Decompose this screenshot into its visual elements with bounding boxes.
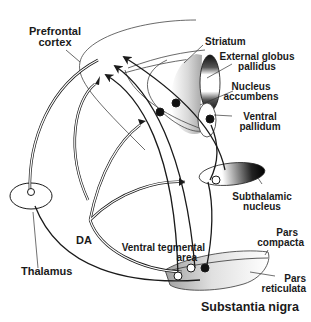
label-ventral-pallidum: Ventral pallidum [234,112,286,132]
label-line: pallidus [218,62,296,72]
label-ventral-tegmental-area: Ventral tegmental area [115,243,205,263]
label-line: pallidum [234,122,286,132]
striatum [171,54,202,134]
label-line: cortex [26,37,84,48]
label-prefrontal-cortex: Prefrontal cortex [26,26,84,48]
label-striatum: Striatum [205,37,246,47]
label-line: reticulata [254,284,306,294]
label-substantia-nigra: Substantia nigra [201,301,299,314]
label-line: accumbens [222,92,280,102]
label-pars-reticulata: Pars reticulata [254,274,306,294]
label-subthalamic-nucleus: Subthalamic nucleus [230,192,294,212]
label-pars-compacta: Pars compacta [244,228,304,248]
label-nucleus-accumbens: Nucleus accumbens [222,82,280,102]
external-globus-pallidus [200,55,220,111]
label-external-globus-pallidus: External globus pallidus [218,52,296,72]
label-da: DA [76,235,92,246]
label-thalamus: Thalamus [21,266,72,277]
label-line: compacta [244,238,304,248]
label-line: area [115,253,205,263]
label-line: nucleus [230,202,294,212]
